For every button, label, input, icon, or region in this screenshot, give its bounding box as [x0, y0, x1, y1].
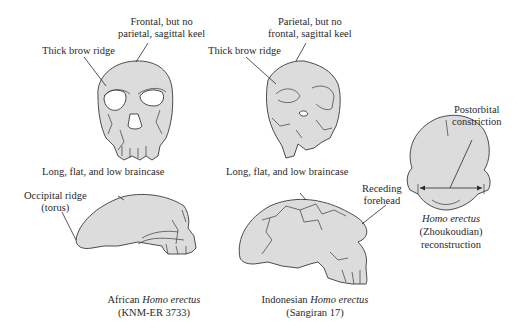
label-thick-brow-ridge-indonesian: Thick brow ridge — [208, 45, 281, 57]
label-thick-brow-ridge-african: Thick brow ridge — [42, 45, 115, 57]
caption-line-1: Indonesian Homo erectus — [240, 293, 390, 306]
label-line: Frontal, but no — [118, 16, 205, 28]
label-braincase-african: Long, flat, and low braincase — [42, 166, 164, 178]
label-line: Parietal, but no — [268, 16, 352, 28]
caption-species: Homo erectus — [142, 294, 200, 305]
caption-prefix: Indonesian — [262, 294, 311, 305]
caption-specimen: (Zhoukoudian) — [406, 225, 496, 238]
caption-specimen: (KNM-ER 3733) — [84, 306, 224, 319]
zhoukoudian-skull-top-view — [407, 115, 490, 210]
label-line: constriction — [452, 116, 502, 128]
caption-african: African Homo erectus (KNM-ER 3733) — [84, 293, 224, 319]
label-line: Postorbital — [452, 104, 502, 116]
label-braincase-indonesian: Long, flat, and low braincase — [226, 166, 348, 178]
caption-indonesian: Indonesian Homo erectus (Sangiran 17) — [240, 293, 390, 319]
caption-species: Homo erectus — [310, 294, 368, 305]
indonesian-skull-lateral-view — [239, 199, 367, 284]
label-postorbital-constriction: Postorbital constriction — [452, 104, 502, 128]
caption-note: reconstruction — [406, 238, 496, 251]
caption-zhoukoudian: Homo erectus (Zhoukoudian) reconstructio… — [406, 212, 496, 251]
label-receding-forehead: Receding forehead — [362, 183, 402, 207]
african-skull-frontal-view — [98, 61, 173, 160]
label-occipital-ridge: Occipital ridge (torus) — [24, 190, 87, 214]
label-line: Occipital ridge — [24, 190, 87, 202]
caption-line-1: African Homo erectus — [84, 293, 224, 306]
caption-line-1: Homo erectus — [406, 212, 496, 225]
caption-species: Homo erectus — [422, 213, 480, 224]
indonesian-skull-frontal-view — [266, 61, 340, 158]
label-parietal-keel: Parietal, but no frontal, sagittal keel — [268, 16, 352, 40]
label-line: frontal, sagittal keel — [268, 28, 352, 40]
label-frontal-keel: Frontal, but no parietal, sagittal keel — [118, 16, 205, 40]
label-line: parietal, sagittal keel — [118, 28, 205, 40]
caption-specimen: (Sangiran 17) — [240, 306, 390, 319]
african-skull-lateral-view — [76, 194, 196, 254]
caption-prefix: African — [108, 294, 143, 305]
label-line: (torus) — [24, 202, 87, 214]
label-line: Receding — [362, 183, 402, 195]
label-line: forehead — [362, 195, 402, 207]
